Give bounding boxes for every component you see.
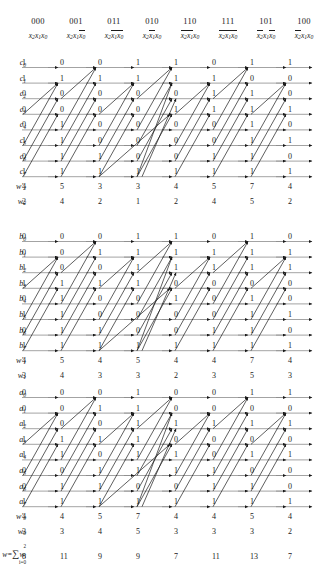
gray-code-weight-diagram: 000001011010110111101100 x2x1x0x2x1x0x2x… (0, 0, 335, 582)
bit-cell: 1 (212, 167, 224, 176)
bit-cell: 1 (288, 341, 300, 350)
weight-value: 4 (288, 182, 302, 191)
bit-cell: 1 (250, 167, 262, 176)
bit-cell: 1 (136, 388, 148, 397)
total-weight-value: 11 (212, 552, 226, 561)
bit-cell: 1 (22, 419, 34, 428)
column-code: 101 (246, 16, 286, 26)
bit-cell: 1 (288, 105, 300, 114)
bit-cell: 1 (250, 497, 262, 506)
weight-value: 4 (288, 356, 302, 365)
bit-cell: 1 (212, 466, 224, 475)
weight-value: 4 (60, 371, 74, 380)
weight-value: 3 (174, 527, 188, 536)
bit-cell: 1 (136, 497, 148, 506)
bit-cell: 1 (212, 482, 224, 491)
bit-cell: 1 (212, 263, 224, 272)
bit-cell: 1 (136, 341, 148, 350)
bit-cell: 0 (98, 120, 110, 129)
bit-cell: 0 (174, 279, 186, 288)
bit-cell: 1 (212, 248, 224, 257)
bit-cell: 0 (212, 58, 224, 67)
bit-cell: 0 (22, 89, 34, 98)
column-code: 001 (56, 16, 96, 26)
bit-cell: 1 (288, 263, 300, 272)
total-weight-value: 11 (60, 552, 74, 561)
bit-cell: 1 (22, 263, 34, 272)
bit-cell: 0 (288, 232, 300, 241)
bit-cell: 1 (288, 419, 300, 428)
bit-cell: 0 (60, 248, 72, 257)
weight-value: 4 (22, 182, 36, 191)
bit-cell: 1 (22, 58, 34, 67)
weight-value: 5 (60, 356, 74, 365)
bit-cell: 1 (288, 310, 300, 319)
bit-cell: 1 (22, 341, 34, 350)
weight-value: 3 (212, 371, 226, 380)
weight-value: 4 (212, 197, 226, 206)
weight-value: 2 (174, 371, 188, 380)
total-weight-value: 13 (250, 552, 264, 561)
bit-cell: 1 (250, 120, 262, 129)
bit-cell: 1 (98, 326, 110, 335)
bit-cell: 1 (250, 58, 262, 67)
bit-cell: 1 (250, 152, 262, 161)
bit-cell: 1 (250, 310, 262, 319)
bit-cell: 1 (136, 232, 148, 241)
weight-value: 3 (136, 371, 150, 380)
bit-cell: 0 (136, 326, 148, 335)
weight-value: 2 (288, 197, 302, 206)
bit-cell: 0 (288, 435, 300, 444)
column-code: 111 (208, 16, 248, 26)
bit-cell: 0 (22, 232, 34, 241)
column-variable-term: x2x1x0 (132, 31, 172, 40)
bit-cell: 0 (288, 482, 300, 491)
weight-value: 4 (174, 512, 188, 521)
weight-value: 1 (136, 197, 150, 206)
bit-cell: 0 (98, 419, 110, 428)
bit-cell: 0 (136, 294, 148, 303)
bit-cell: 0 (98, 232, 110, 241)
bit-cell: 0 (212, 294, 224, 303)
bit-cell: 0 (136, 482, 148, 491)
bit-cell: 0 (136, 310, 148, 319)
bit-cell: 1 (60, 482, 72, 491)
bit-cell: 0 (60, 232, 72, 241)
bit-cell: 1 (288, 388, 300, 397)
bit-cell: 1 (212, 152, 224, 161)
weight-value: 4 (98, 356, 112, 365)
bit-cell: 1 (212, 105, 224, 114)
weight-value: 3 (288, 371, 302, 380)
bit-cell: 0 (60, 105, 72, 114)
weight-value: 4 (22, 356, 36, 365)
bit-cell: 1 (60, 152, 72, 161)
bit-cell: 0 (60, 388, 72, 397)
bit-cell: 1 (288, 248, 300, 257)
bit-cell: 0 (174, 120, 186, 129)
weight-value: 5 (250, 197, 264, 206)
bit-cell: 1 (250, 136, 262, 145)
bit-cell: 0 (136, 105, 148, 114)
bit-cell: 0 (136, 89, 148, 98)
bit-cell: 1 (98, 167, 110, 176)
column-code: 110 (170, 16, 210, 26)
column-variable-term: x2x1x0 (246, 31, 286, 40)
bit-cell: 1 (22, 450, 34, 459)
bit-cell: 1 (60, 450, 72, 459)
bit-cell: 1 (212, 497, 224, 506)
weight-value: 3 (212, 527, 226, 536)
column-variable-term: x2x1x0 (56, 31, 96, 40)
bit-cell: 1 (136, 404, 148, 413)
weight-value: 4 (22, 512, 36, 521)
weight-value: 4 (174, 356, 188, 365)
bit-cell: 1 (98, 466, 110, 475)
weight-value: 4 (212, 512, 226, 521)
bit-cell: 0 (288, 466, 300, 475)
bit-cell: 1 (250, 341, 262, 350)
weight-value: 5 (212, 182, 226, 191)
column-code: 000 (18, 16, 58, 26)
bit-cell: 0 (174, 435, 186, 444)
weight-value: 4 (174, 182, 188, 191)
bit-cell: 0 (250, 435, 262, 444)
weight-value: 2 (174, 197, 188, 206)
